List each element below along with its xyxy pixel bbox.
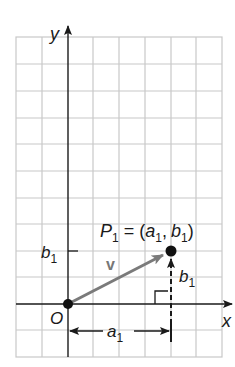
vector-label: v: [106, 256, 115, 273]
point-p1: [166, 246, 177, 257]
grid: [16, 37, 222, 357]
right-angle-marker: [155, 291, 168, 304]
vector-v: [68, 255, 163, 304]
y-tick-label: b1: [41, 243, 57, 266]
point-p1-label: P1=(a1,b1): [100, 221, 194, 245]
horizontal-component-label: a1: [107, 322, 123, 345]
origin-point: [63, 299, 73, 309]
x-axis-label: x: [221, 311, 232, 331]
coordinate-diagram: y x O b1 v b1 a1 P1=(a1,b1): [0, 0, 235, 367]
y-axis-label: y: [48, 24, 60, 44]
origin-label: O: [50, 309, 63, 328]
vertical-component-label: b1: [179, 267, 195, 290]
